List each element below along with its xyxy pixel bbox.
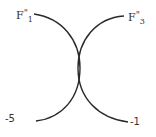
- label-f3-base: F: [128, 11, 136, 24]
- label-f1-double-prime: F"1: [16, 9, 33, 24]
- label-f3-double-prime: F"3: [128, 11, 145, 26]
- label-f3-sub: 3: [140, 17, 145, 26]
- label-minus-1: -1: [130, 117, 140, 127]
- label-f1-base: F: [16, 9, 24, 22]
- label-f1-sub: 1: [28, 15, 33, 24]
- curve-crossing-diagram: F"1 F"3 -5 -1: [0, 0, 156, 137]
- label-minus-5: -5: [5, 114, 15, 124]
- left-arc-curve: [34, 14, 80, 121]
- right-arc-curve: [78, 16, 128, 122]
